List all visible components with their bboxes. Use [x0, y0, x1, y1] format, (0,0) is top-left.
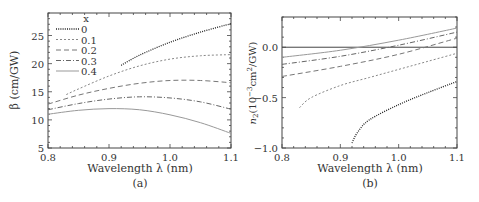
y-tick-label: 5	[38, 143, 44, 154]
legend-label: 0.1	[81, 35, 97, 46]
plot-frame	[282, 17, 457, 148]
series-line-x-0	[121, 24, 231, 66]
chart-b-xlabel: Wavelength λ (nm)	[317, 162, 422, 175]
chart-a-ylabel: β (cm/GW)	[8, 51, 21, 110]
series-line-x-0.2	[282, 38, 457, 76]
chart-b-caption: (b)	[362, 177, 378, 190]
series-line-x-0	[352, 81, 457, 142]
series-line-x-0.3	[282, 32, 457, 64]
x-tick-label: 1.1	[449, 152, 465, 163]
legend-label: 0.3	[81, 56, 97, 67]
y-tick-label: 15	[31, 87, 44, 98]
plot-frame	[48, 13, 231, 148]
y-tick-label: 25	[31, 31, 44, 42]
chart-b-ylabel: n2(10−3cm2/GW)	[246, 41, 260, 124]
series-line-x-0.3	[48, 97, 231, 110]
chart-a: 0.80.91.01.1510152025x00.10.20.30.4	[31, 13, 239, 163]
chart-b: 0.80.91.01.1−1.0−0.50.0	[254, 17, 465, 163]
legend-label: 0.2	[81, 45, 97, 56]
x-tick-label: 1.1	[223, 152, 239, 163]
series-line-x-0.4	[48, 109, 231, 134]
chart-a-caption: (a)	[132, 177, 147, 190]
legend-label: 0.4	[81, 66, 97, 77]
legend-title: x	[83, 13, 89, 24]
series-line-x-0.4	[282, 28, 457, 57]
y-tick-label: 10	[31, 115, 44, 126]
y-tick-label: −1.0	[254, 143, 278, 154]
chart-a-xlabel: Wavelength λ (nm)	[87, 162, 192, 175]
svg-text:n2(10−3cm2/GW): n2(10−3cm2/GW)	[246, 41, 260, 124]
series-line-x-0.2	[48, 80, 231, 104]
y-tick-label: 20	[31, 59, 44, 70]
y-tick-label: 0.0	[262, 42, 278, 53]
figure: 0.80.91.01.1510152025x00.10.20.30.4 0.80…	[0, 0, 479, 202]
series-line-x-0.1	[300, 53, 458, 107]
legend-label: 0	[81, 24, 87, 35]
